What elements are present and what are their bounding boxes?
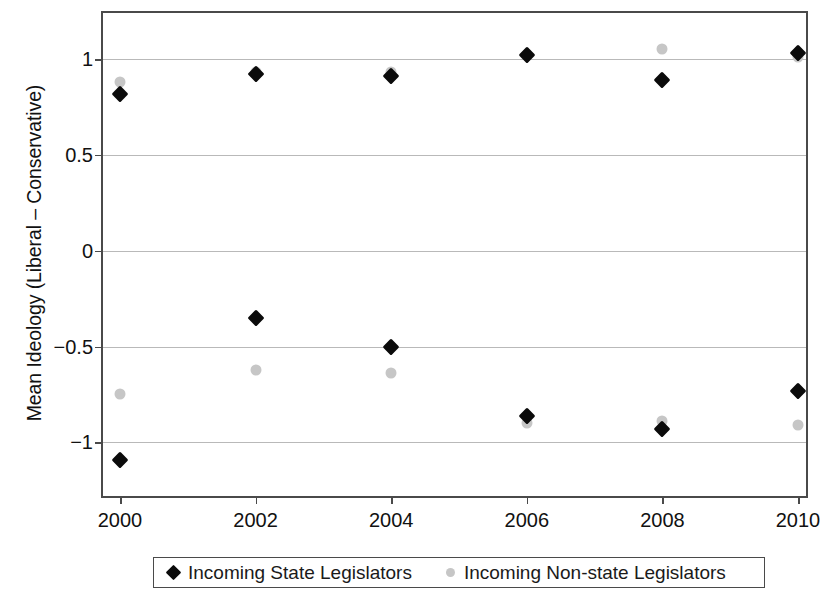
data-point-nonstate	[657, 44, 668, 55]
data-point-state	[518, 47, 535, 64]
x-axis-tick-label: 2010	[776, 509, 821, 532]
diamond-icon	[166, 565, 182, 581]
y-axis-tick-label: 1	[82, 48, 93, 71]
gridline	[103, 347, 806, 348]
data-point-state	[112, 85, 129, 102]
x-axis-tick	[256, 496, 258, 504]
gridline	[103, 59, 806, 60]
gridline	[103, 251, 806, 252]
y-axis-title: Mean Ideology (Liberal – Conservative)	[12, 18, 56, 488]
x-axis-tick	[798, 496, 800, 504]
y-axis-tick-label: 0.5	[65, 143, 93, 166]
y-axis-tick-label: 0	[82, 239, 93, 262]
data-point-state	[654, 72, 671, 89]
gridline	[103, 155, 806, 156]
x-axis-tick-label: 2004	[369, 509, 414, 532]
data-point-nonstate	[250, 364, 261, 375]
data-point-state	[112, 451, 129, 468]
circle-icon	[446, 568, 455, 577]
x-axis-tick	[120, 496, 122, 504]
y-axis-tick-label: −0.5	[54, 335, 93, 358]
scatter-chart-figure: Mean Ideology (Liberal – Conservative) 1…	[0, 0, 832, 604]
gridline	[103, 442, 806, 443]
y-axis-tick	[95, 347, 103, 349]
data-point-nonstate	[115, 389, 126, 400]
data-point-state	[790, 382, 807, 399]
x-axis-tick-label: 2008	[640, 509, 685, 532]
x-axis-tick	[391, 496, 393, 504]
x-axis-tick-label: 2000	[98, 509, 143, 532]
data-point-state	[383, 338, 400, 355]
data-point-nonstate	[793, 420, 804, 431]
y-axis-tick	[95, 442, 103, 444]
data-point-state	[247, 66, 264, 83]
data-point-state	[247, 309, 264, 326]
data-point-nonstate	[386, 368, 397, 379]
plot-area: 10.50−0.5−1200020022004200620082010	[101, 11, 808, 498]
x-axis-tick-label: 2006	[505, 509, 550, 532]
x-axis-tick	[662, 496, 664, 504]
y-axis-tick	[95, 251, 103, 253]
legend-label-state-legislators: Incoming State Legislators	[188, 562, 412, 584]
legend-entry-state-legislators: Incoming State Legislators	[168, 562, 412, 584]
legend-label-nonstate-legislators: Incoming Non-state Legislators	[464, 562, 726, 584]
y-axis-tick	[95, 155, 103, 157]
y-axis-tick-label: −1	[70, 431, 93, 454]
x-axis-tick-label: 2002	[233, 509, 278, 532]
x-axis-tick	[527, 496, 529, 504]
y-axis-tick	[95, 59, 103, 61]
chart-legend: Incoming State Legislators Incoming Non-…	[153, 557, 765, 588]
legend-entry-nonstate-legislators: Incoming Non-state Legislators	[446, 562, 726, 584]
